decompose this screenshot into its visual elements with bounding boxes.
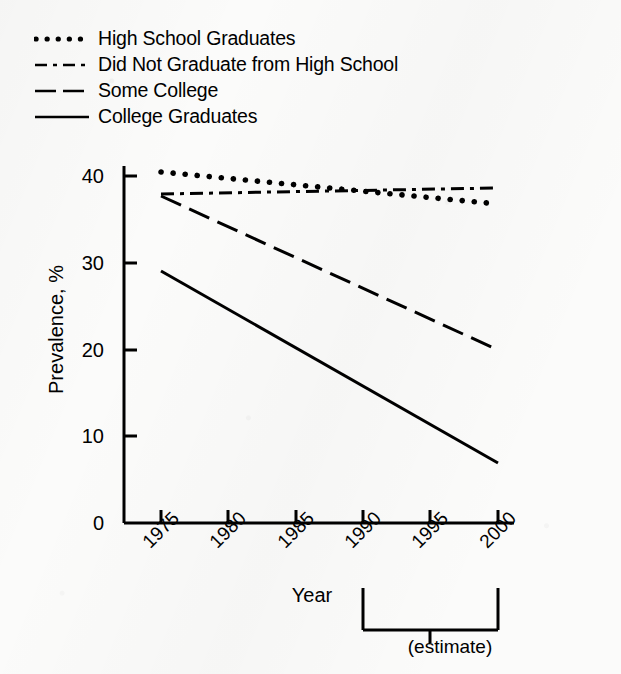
legend-item-some-college: Some College	[34, 78, 398, 104]
legend-label-college-graduates: College Graduates	[98, 107, 257, 127]
legend-item-did-not-graduate: Did Not Graduate from High School	[34, 52, 398, 78]
estimate-bracket	[363, 588, 498, 643]
legend-item-high-school-graduates: High School Graduates	[34, 26, 398, 52]
y-tick-label-0: 0	[60, 513, 104, 533]
legend-item-college-graduates: College Graduates	[34, 104, 398, 130]
legend-sample-solid-icon	[34, 109, 90, 125]
y-axis-ticks	[124, 176, 137, 436]
chart-legend: High School Graduates Did Not Graduate f…	[34, 26, 398, 130]
legend-sample-dotted-icon	[34, 31, 90, 47]
y-tick-label-10: 10	[60, 426, 104, 446]
legend-label-high-school-graduates: High School Graduates	[98, 29, 295, 49]
legend-label-did-not-graduate: Did Not Graduate from High School	[98, 55, 398, 75]
y-axis-title: Prevalence, %	[45, 250, 68, 410]
estimate-annotation-label: (estimate)	[370, 636, 530, 658]
chart-axes	[124, 166, 514, 523]
chart-figure: High School Graduates Did Not Graduate f…	[0, 0, 621, 674]
legend-label-some-college: Some College	[98, 81, 218, 101]
series-line-college-graduates	[161, 271, 498, 463]
series-line-high-school-graduates	[161, 172, 498, 204]
legend-sample-long-dash-icon	[34, 83, 90, 99]
y-tick-label-40: 40	[60, 166, 104, 186]
legend-sample-dash-dot-icon	[34, 57, 90, 73]
series-line-some-college	[161, 196, 498, 350]
x-axis-title: Year	[262, 584, 362, 607]
